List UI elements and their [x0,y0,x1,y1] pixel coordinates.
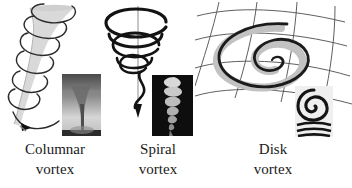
caption-spiral-vortex: Spiral vortex [120,139,196,179]
grid-line-h1 [197,10,345,22]
caption-columnar-line1: Columnar [4,139,106,159]
caption-disk-line2: vortex [225,159,321,179]
caption-disk-line1: Disk [225,139,321,159]
spiral-photo-content [295,86,333,137]
spiral-tail [135,72,144,108]
tornado-photo-content [62,74,101,136]
caption-columnar-line2: vortex [4,159,106,179]
panel-columnar-vortex: Columnar vortex [0,0,115,188]
caption-columnar-vortex: Columnar vortex [4,139,106,179]
tornado-funnel-photo [62,74,101,136]
spiral-disk-photo [295,86,333,137]
spiral-center-hook [272,57,281,60]
panel-spiral-vortex: Spiral vortex [100,0,200,188]
spiral-arrowhead [134,104,142,118]
helical-vortex-photo [152,75,193,136]
photo-debris-cloud [70,126,94,134]
vortex-types-figure: Columnar vortex [0,0,352,188]
helical-photo-content [152,75,193,136]
panel-disk-vortex: Disk vortex [195,0,352,188]
caption-spiral-line1: Spiral [120,139,196,159]
caption-disk-vortex: Disk vortex [225,139,321,179]
grid-line-d1 [195,2,219,86]
caption-spiral-line2: vortex [120,159,196,179]
